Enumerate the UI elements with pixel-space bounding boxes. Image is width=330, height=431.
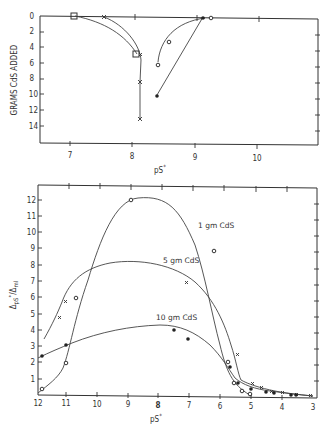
label-1gm-cds: 1 gm CdS [198,221,235,230]
marker-1gm [240,389,244,393]
label-5gm-cds: 5 gm CdS [163,256,200,265]
top-curves [75,16,205,119]
figure: 0 2 4 6 8 10 12 14 7 8 9 10 GRAMS CdS AD… [0,0,330,431]
y-tick-label: 12 [27,196,36,205]
y-tick-label: 8 [29,74,34,83]
curve-squares [75,16,137,54]
x-markers [102,15,142,121]
label-10gm-cds: 10 gm CdS [156,313,197,322]
marker-10gm [249,387,253,391]
y-tick-label: 6 [29,59,34,68]
marker-1gm [226,360,230,364]
marker-1gm [248,392,252,396]
bottom-chart: 1 2 3 4 5 6 7 8 9 10 11 12 12 11 10 9 8 … [7,183,319,424]
top-markers [71,13,213,121]
marker-10gm [236,381,240,385]
marker-1gm [74,296,78,300]
x-tick-label: 7 [68,151,73,160]
marker-1gm [64,361,68,365]
x-tick-label: 10 [92,400,102,409]
marker-10gm [228,365,232,369]
marker-1gm [212,249,216,253]
y-tick-label: 12 [29,106,38,115]
marker-1gm [40,387,44,391]
curve-5gm [44,261,313,396]
x-tick-label: 9 [193,153,198,162]
top-plot-frame [40,16,318,145]
y-tick-label: 2 [29,27,34,36]
filled-circle-marker [155,94,159,98]
x-tick-label: 8 [130,152,135,161]
x-tick-label: 11 [61,399,70,408]
y-tick-label: 14 [29,122,39,131]
y-tick-label: 4 [29,43,34,52]
marker-10gm [264,390,268,394]
marker-10gm [64,343,68,347]
x-tick-label: 10 [252,154,262,163]
y-tick-label: 3 [30,342,35,351]
open-circle-marker [156,63,160,67]
bottom-y-axis-label: ΔpS*/Δml [7,281,20,310]
marker-1gm [129,198,133,202]
y-tick-label: 8 [30,261,35,270]
y-tick-label: 7 [30,277,35,286]
y-tick-label: 6 [30,293,35,302]
x-tick-label: 8 [155,401,160,410]
x-tick-label: 5 [249,402,254,411]
marker-10gm [272,391,276,395]
filled-circle-marker [201,16,205,20]
bottom-markers [40,198,312,397]
y-tick-label: 4 [30,326,35,335]
bottom-y-tick-labels: 1 2 3 4 5 6 7 8 9 10 11 12 [27,196,37,384]
marker-1gm [232,381,236,385]
bottom-x-axis-label: pS* [150,412,162,424]
marker-10gm [172,328,176,332]
x-tick-label: 4 [280,403,285,412]
bottom-y-ticks [38,200,319,400]
y-tick-label: 11 [27,212,36,221]
top-chart: 0 2 4 6 8 10 12 14 7 8 9 10 GRAMS CdS AD… [10,12,320,175]
x-tick-label: 12 [33,399,42,408]
marker-10gm [186,337,190,341]
marker-10gm [294,393,298,397]
curve-10gm [38,325,313,396]
markers-5gm [58,281,312,397]
x-tick-label: 3 [311,403,316,412]
bottom-curves [38,198,313,396]
curve-open-circles [158,18,205,62]
top-y-ticks [40,14,320,149]
y-tick-label: 2 [30,358,35,367]
y-tick-label: 0 [29,12,34,21]
curve-filled-circles [157,17,203,95]
curve-crosses [104,17,141,119]
x-tick-label: 6 [218,402,223,411]
marker-10gm [289,393,293,397]
top-y-tick-labels: 0 2 4 6 8 10 12 14 [29,12,39,131]
x-tick-label: 7 [187,401,192,410]
y-tick-label: 1 [30,375,35,384]
x-tick-label: 9 [126,400,131,409]
y-tick-label: 5 [30,310,35,319]
top-y-axis-label: GRAMS CdS ADDED [10,44,19,115]
marker-10gm [40,354,44,358]
open-circle-marker [167,40,171,44]
y-tick-label: 9 [30,244,35,253]
top-x-axis-label: pS* [154,163,166,175]
bottom-x-tick-labels: 12 11 10 9 8 7 6 5 4 3 [33,399,315,412]
bottom-plot-frame [38,185,317,398]
y-tick-label: 10 [29,90,39,99]
open-circle-marker [209,16,213,20]
top-x-tick-labels: 7 8 9 10 [68,151,262,163]
y-tick-label: 10 [27,228,37,237]
